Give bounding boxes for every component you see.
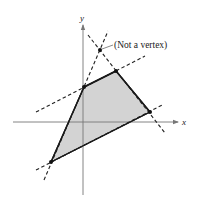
vertex-a — [49, 160, 53, 164]
y-axis-label: y — [79, 13, 84, 23]
x-axis-label: x — [181, 117, 186, 127]
vertex-b — [82, 85, 86, 89]
annotation-label: (Not a vertex) — [114, 40, 167, 51]
annotation-leader — [102, 45, 113, 49]
feasible-region — [51, 71, 150, 162]
non-vertex-point — [98, 48, 102, 52]
feasible-region-diagram: (Not a vertex) y x — [0, 0, 201, 206]
vertex-c — [114, 69, 118, 73]
vertex-d — [148, 110, 152, 114]
